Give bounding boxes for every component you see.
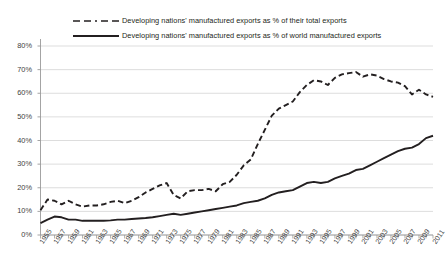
y-axis-label: 80%: [2, 42, 32, 50]
y-axis-label: 70%: [2, 66, 32, 74]
y-axis-label: 0%: [2, 231, 32, 239]
y-axis-label: 60%: [2, 89, 32, 97]
series-line-2: [41, 136, 434, 223]
y-axis-label: 50%: [2, 113, 32, 121]
y-axis-label: 40%: [2, 137, 32, 145]
y-axis-label: 30%: [2, 160, 32, 168]
y-axis-label: 10%: [2, 207, 32, 215]
data-series-layer: [41, 72, 434, 223]
series-line-1: [41, 72, 434, 210]
y-axis-label: 20%: [2, 184, 32, 192]
